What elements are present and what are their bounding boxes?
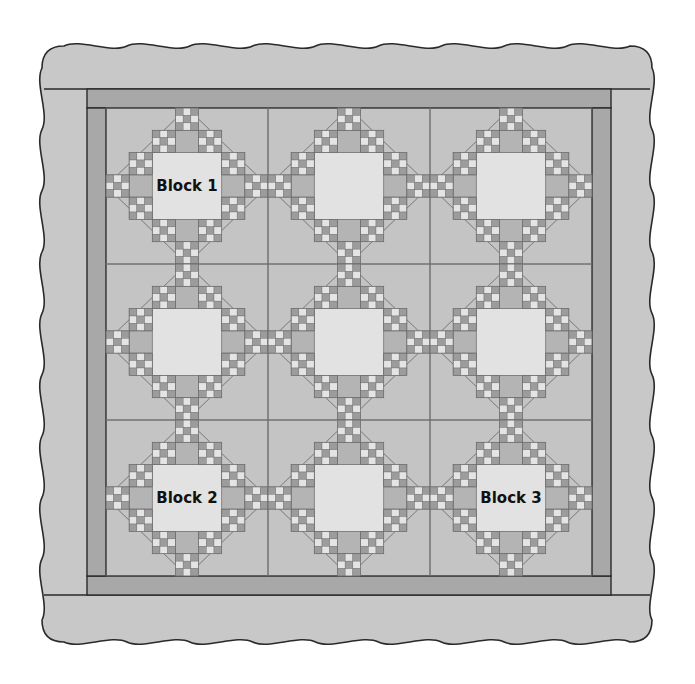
center-square: [476, 153, 545, 220]
center-square: [314, 309, 383, 376]
inner-border-top: [87, 89, 611, 108]
block-label-2: Block 2: [156, 489, 217, 507]
inner-border-right: [592, 108, 611, 576]
center-square: [314, 153, 383, 220]
inner-border-left: [87, 108, 106, 576]
center-square: [152, 309, 221, 376]
quilt-diagram: Block 1 Block 2 Block 3: [0, 0, 695, 684]
center-square: [476, 309, 545, 376]
block-label-1: Block 1: [156, 177, 217, 195]
center-square: [314, 465, 383, 532]
inner-border-bottom: [87, 576, 611, 595]
block-label-3: Block 3: [480, 489, 541, 507]
